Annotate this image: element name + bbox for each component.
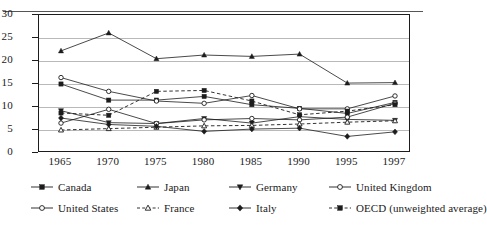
- legend-item-germany[interactable]: Germany: [228, 181, 328, 193]
- data-point: [250, 116, 254, 120]
- series-line: [61, 33, 395, 83]
- x-tick-label: 1970: [86, 155, 130, 167]
- legend-swatch: [228, 182, 252, 192]
- data-point: [297, 107, 301, 111]
- series-line: [61, 121, 395, 130]
- data-point: [107, 89, 111, 93]
- series-line: [61, 90, 395, 115]
- legend-label: Japan: [164, 181, 190, 193]
- data-point: [107, 113, 111, 117]
- x-tick-label: 1990: [277, 155, 321, 167]
- data-point: [345, 109, 349, 113]
- data-point: [250, 93, 254, 97]
- legend-label: Italy: [256, 202, 277, 214]
- legend-swatch: [136, 203, 160, 213]
- data-point: [59, 82, 63, 86]
- header-rule: [3, 11, 423, 12]
- legend-label: United States: [58, 202, 118, 214]
- data-point: [154, 99, 158, 103]
- series-line: [61, 78, 395, 109]
- data-point: [107, 107, 111, 111]
- data-point: [393, 94, 397, 98]
- data-point: [345, 134, 350, 140]
- legend-swatch: [328, 203, 352, 213]
- legend-item-japan[interactable]: Japan: [136, 181, 228, 193]
- data-point: [202, 123, 207, 128]
- y-tick-label: 15: [0, 77, 13, 88]
- x-tick-label: 1995: [324, 155, 368, 167]
- legend-item-canada[interactable]: Canada: [30, 181, 136, 193]
- plot-area: [38, 14, 410, 152]
- legend-label: Canada: [58, 181, 92, 193]
- data-point: [392, 129, 397, 135]
- legend-label: United Kingdom: [356, 181, 432, 193]
- legend-label: France: [164, 202, 195, 214]
- legend-item-oecd-unweighted-average[interactable]: OECD (unweighted average): [328, 202, 487, 214]
- x-tick-label: 1975: [133, 155, 177, 167]
- x-tick-label: 1985: [229, 155, 273, 167]
- y-tick-label: 25: [0, 31, 13, 42]
- y-tick-mark: [32, 152, 38, 153]
- series-japan: [58, 30, 397, 85]
- y-tick-label: 20: [0, 54, 13, 65]
- data-point: [393, 103, 397, 107]
- legend-swatch: [30, 203, 54, 213]
- data-point: [250, 99, 254, 103]
- x-tick-label: 1997: [372, 155, 416, 167]
- data-point: [58, 115, 63, 121]
- legend-item-france[interactable]: France: [136, 202, 228, 214]
- data-point: [106, 30, 111, 35]
- x-tick-label: 1980: [181, 155, 225, 167]
- data-point: [202, 94, 206, 98]
- y-tick-label: 10: [0, 100, 13, 111]
- legend-swatch: [228, 203, 252, 213]
- data-point: [202, 129, 207, 135]
- data-point: [202, 101, 206, 105]
- data-point: [59, 111, 63, 115]
- legend-swatch: [136, 182, 160, 192]
- data-point: [59, 121, 63, 125]
- data-point: [202, 118, 206, 122]
- legend-item-united-kingdom[interactable]: United Kingdom: [328, 181, 487, 193]
- chart-legend: CanadaJapanGermanyUnited KingdomUnited S…: [30, 176, 422, 220]
- data-point: [59, 75, 63, 79]
- legend-item-italy[interactable]: Italy: [228, 202, 328, 214]
- y-tick-label: 0: [0, 146, 13, 157]
- data-point: [202, 88, 206, 92]
- data-point: [345, 120, 350, 125]
- legend-label: OECD (unweighted average): [356, 202, 487, 214]
- data-point: [107, 98, 111, 102]
- series-united-kingdom: [59, 75, 397, 111]
- y-tick-label: 30: [0, 8, 13, 19]
- data-point: [154, 89, 158, 93]
- data-point: [297, 113, 301, 117]
- series-layer: [39, 15, 411, 153]
- legend-swatch: [328, 182, 352, 192]
- x-tick-label: 1965: [38, 155, 82, 167]
- data-point: [58, 127, 63, 132]
- y-tick-label: 5: [0, 123, 13, 134]
- legend-item-united-states[interactable]: United States: [30, 202, 136, 214]
- legend-swatch: [30, 182, 54, 192]
- legend-label: Germany: [256, 181, 298, 193]
